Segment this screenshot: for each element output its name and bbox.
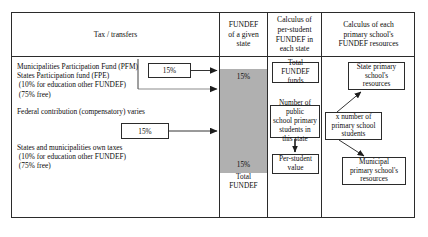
node-municipal-school-resources-label: Municipal primary school's resources <box>343 158 405 185</box>
arrow-multiplier-to-municipal-school <box>339 140 364 156</box>
column-header-per-student-label: Calculus of per-student FUNDEF in each s… <box>268 15 321 53</box>
percent-box-own-taxes-label: 15% <box>138 127 151 136</box>
node-municipal-school-resources: Municipal primary school's resources <box>342 157 406 185</box>
percent-box-participation-label: 15% <box>163 66 176 75</box>
column-header-school-resources: Calculus of each primary school's FUNDEF… <box>322 13 415 56</box>
node-total-fundef-funds: Total FUNDEF funds <box>272 62 319 83</box>
source-own-taxes: States and municipalities own taxes (10%… <box>17 143 126 171</box>
node-per-student-value: Per-student value <box>272 154 319 174</box>
column-header-fundef-state-label: FUNDEF of a given state <box>220 20 267 49</box>
percent-box-participation: 15% <box>148 63 191 78</box>
fundef-flow-diagram: Tax / transfers FUNDEF of a given state … <box>11 12 415 218</box>
node-multiplier: x number of primary school students <box>325 112 382 140</box>
fundef-share-bottom: 15% <box>220 160 267 169</box>
node-per-student-value-label: Per-student value <box>273 155 318 173</box>
fundef-total-label: Total FUNDEF <box>220 172 267 190</box>
node-total-fundef-funds-label: Total FUNDEF funds <box>273 59 318 86</box>
source-federal-contribution: Federal contribution (compensatory) vari… <box>17 107 145 116</box>
node-student-count: Number of public school primary students… <box>270 105 320 138</box>
column-header-fundef-state: FUNDEF of a given state <box>220 13 267 56</box>
node-multiplier-label: x number of primary school students <box>326 113 381 140</box>
fundef-share-top: 15% <box>220 72 267 81</box>
node-state-school-resources: State primary school's resources <box>348 62 405 90</box>
column-header-school-resources-label: Calculus of each primary school's FUNDEF… <box>322 20 415 49</box>
node-student-count-label: Number of public school primary students… <box>271 99 319 144</box>
column-header-tax-transfers-label: Tax / transfers <box>12 30 219 40</box>
percent-box-own-taxes: 15% <box>121 123 169 139</box>
fundef-gray-fill <box>220 69 267 173</box>
header-divider <box>12 56 414 57</box>
source-participation-funds: Municipalities Participation Fund (PFM) … <box>17 62 138 99</box>
column-header-per-student: Calculus of per-student FUNDEF in each s… <box>268 13 321 56</box>
node-state-school-resources-label: State primary school's resources <box>349 63 404 90</box>
column-header-tax-transfers: Tax / transfers <box>12 13 219 56</box>
arrow-multiplier-to-state-school <box>337 92 361 112</box>
